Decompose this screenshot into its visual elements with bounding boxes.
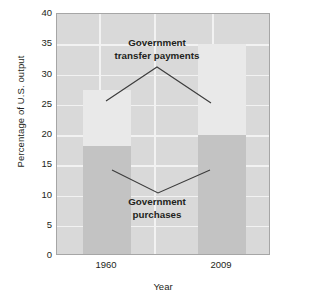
annotation-purchases: Government purchases [62, 196, 252, 221]
x-tick-1960: 1960 [71, 259, 141, 270]
y-tick-5: 5 [14, 220, 52, 230]
x-axis-label: Year [56, 281, 270, 292]
y-tick-25: 25 [14, 99, 52, 109]
y-tick-30: 30 [14, 69, 52, 79]
y-tick-0: 0 [14, 250, 52, 260]
annotation-transfer-payments: Government transfer payments [62, 37, 252, 62]
y-tick-10: 10 [14, 190, 52, 200]
annotation-purchases-line2: purchases [132, 209, 181, 220]
bar-2009-purchases [198, 135, 246, 255]
y-tick-35: 35 [14, 38, 52, 48]
y-tick-15: 15 [14, 159, 52, 169]
y-axis-label: Percentage of U.S. output [15, 22, 26, 202]
x-tick-2009: 2009 [186, 259, 256, 270]
annotation-transfer-line1: Government [128, 37, 186, 48]
y-tick-20: 20 [14, 129, 52, 139]
chart-figure: Percentage of U.S. output 40 35 30 25 20… [0, 0, 312, 298]
y-tick-40: 40 [14, 8, 52, 18]
annotation-purchases-line1: Government [128, 196, 186, 207]
bar-1960-transfer-payments [83, 90, 131, 146]
annotation-transfer-line2: transfer payments [115, 50, 200, 61]
